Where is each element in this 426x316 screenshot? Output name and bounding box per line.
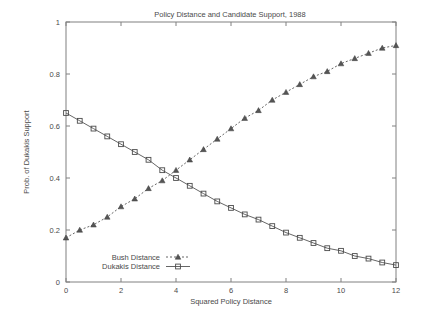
- data-point-marker: [283, 89, 289, 94]
- data-point-marker: [159, 178, 165, 183]
- plot-frame: [66, 22, 396, 282]
- chart-title: Policy Distance and Candidate Support, 1…: [154, 10, 305, 19]
- y-tick-label: 1: [56, 18, 60, 27]
- legend-label: Dukakis Distance: [102, 262, 160, 271]
- data-point-marker: [324, 69, 330, 74]
- x-tick-label: 10: [337, 286, 345, 295]
- x-axis-ticks: [66, 22, 396, 282]
- series-dukakis-distance: [64, 111, 399, 268]
- chart-page: 024681012 00.20.40.60.81 Bush DistanceDu…: [0, 0, 426, 316]
- policy-distance-chart: 024681012 00.20.40.60.81 Bush DistanceDu…: [0, 0, 426, 316]
- y-tick-label: 0.6: [50, 122, 60, 131]
- y-axis-tick-labels: 00.20.40.60.81: [50, 18, 60, 287]
- chart-legend: Bush DistanceDukakis Distance: [102, 253, 190, 272]
- x-tick-label: 12: [392, 286, 400, 295]
- data-point-marker: [269, 97, 275, 102]
- legend-item-dukakis-distance[interactable]: Dukakis Distance: [102, 262, 190, 271]
- x-tick-label: 8: [284, 286, 288, 295]
- data-point-marker: [132, 196, 138, 201]
- x-tick-label: 4: [174, 286, 178, 295]
- data-point-marker: [118, 204, 124, 209]
- data-point-marker: [393, 43, 399, 48]
- y-axis-ticks: [66, 22, 396, 282]
- data-point-marker: [91, 222, 97, 227]
- data-point-marker: [242, 115, 248, 120]
- y-axis-label: Prob. of Dukakis Support: [22, 109, 31, 193]
- y-tick-label: 0.2: [50, 226, 60, 235]
- legend-label: Bush Distance: [112, 253, 160, 262]
- data-point-marker: [63, 235, 69, 240]
- series-layer: [63, 43, 399, 268]
- y-tick-label: 0: [56, 278, 60, 287]
- legend-item-bush-distance[interactable]: Bush Distance: [112, 253, 190, 262]
- x-axis-label: Squared Policy Distance: [190, 297, 272, 306]
- data-point-marker: [311, 74, 317, 79]
- data-point-marker: [297, 82, 303, 87]
- x-tick-label: 2: [119, 286, 123, 295]
- x-axis-tick-labels: 024681012: [64, 286, 400, 295]
- y-tick-label: 0.8: [50, 70, 60, 79]
- data-point-marker: [256, 108, 262, 113]
- data-point-marker: [352, 56, 358, 61]
- x-tick-label: 0: [64, 286, 68, 295]
- data-point-marker: [146, 186, 152, 191]
- data-point-marker: [201, 147, 207, 152]
- x-tick-label: 6: [229, 286, 233, 295]
- y-tick-label: 0.4: [50, 174, 60, 183]
- data-point-marker: [366, 50, 372, 55]
